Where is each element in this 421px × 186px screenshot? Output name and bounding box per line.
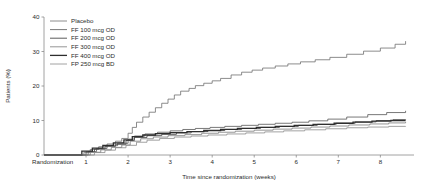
x-tick-label: 2 xyxy=(126,158,130,165)
x-tick-label: 4 xyxy=(210,158,214,165)
x-tick-label: 5 xyxy=(253,158,257,165)
x-axis: 12345678Randomization xyxy=(32,155,414,165)
legend-item-label: Placebo xyxy=(71,17,94,24)
x-tick-label: 3 xyxy=(168,158,172,165)
y-tick-label: 20 xyxy=(33,82,40,89)
y-axis: 010203040 xyxy=(33,13,44,158)
y-tick-label: 10 xyxy=(33,117,40,124)
x-axis-title: Time since randomization (weeks) xyxy=(182,173,276,180)
x-tick-label: 7 xyxy=(337,158,341,165)
kaplan-meier-plot: 010203040 12345678Randomization PlaceboF… xyxy=(0,0,421,186)
y-axis-title: Patients (%) xyxy=(4,69,11,103)
x-tick-label: 8 xyxy=(379,158,383,165)
y-tick-label: 40 xyxy=(33,13,40,20)
legend-item-label: FF 300 mcg OD xyxy=(71,43,116,50)
legend-item-label: FF 200 mcg OD xyxy=(71,34,116,41)
x-origin-label: Randomization xyxy=(32,158,74,165)
legend-item-label: FF 400 mcg OD xyxy=(71,52,116,59)
y-tick-label: 30 xyxy=(33,48,40,55)
chart-figure: 010203040 12345678Randomization PlaceboF… xyxy=(0,0,421,186)
chart-legend: PlaceboFF 100 mcg ODFF 200 mcg ODFF 300 … xyxy=(50,17,116,67)
legend-item-label: FP 250 mcg BD xyxy=(71,60,115,67)
x-tick-label: 6 xyxy=(295,158,299,165)
x-tick-label: 1 xyxy=(84,158,88,165)
legend-item-label: FF 100 mcg OD xyxy=(71,26,116,33)
